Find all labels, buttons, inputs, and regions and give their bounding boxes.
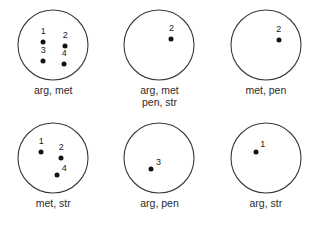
circle-container-6: 1 <box>230 122 302 194</box>
circle-container-2: 2 <box>123 9 195 81</box>
set-circle-2 <box>123 9 195 81</box>
data-point <box>276 38 281 43</box>
data-point-label: 2 <box>169 24 174 33</box>
caption-line: arg, met <box>34 84 73 96</box>
data-point-label: 2 <box>276 25 281 34</box>
data-point-label: 2 <box>59 143 64 152</box>
diagram-panel-3: 2 met, pen <box>213 0 319 113</box>
circle-container-5: 3 <box>123 122 195 194</box>
set-diagram-figure: 1 2 3 4 arg, met 2 arg, met <box>0 0 319 226</box>
set-circle-4 <box>17 122 89 194</box>
data-point <box>41 59 46 64</box>
diagram-row-bottom: 1 2 4 met, str 3 arg, pen <box>0 113 319 226</box>
data-point-label: 1 <box>39 137 44 146</box>
caption-line: arg, pen <box>140 197 179 209</box>
data-point <box>62 62 67 67</box>
caption-line: arg, str <box>249 197 282 209</box>
data-point <box>59 156 64 161</box>
data-point <box>55 173 60 178</box>
caption-line: met, str <box>36 197 71 209</box>
diagram-panel-2: 2 arg, met pen, str <box>106 0 212 113</box>
diagram-row-top: 1 2 3 4 arg, met 2 arg, met <box>0 0 319 113</box>
data-point-label: 3 <box>41 46 46 55</box>
caption-line: arg, met <box>140 84 179 96</box>
diagram-panel-1: 1 2 3 4 arg, met <box>0 0 106 113</box>
circle-container-1: 1 2 3 4 <box>17 9 89 81</box>
panel-caption-3: met, pen <box>245 84 286 96</box>
panel-caption-1: arg, met <box>34 84 73 96</box>
data-point <box>169 37 174 42</box>
circle-container-4: 1 2 4 <box>17 122 89 194</box>
data-point-label: 4 <box>62 49 67 58</box>
data-point <box>253 150 258 155</box>
data-point-label: 3 <box>156 158 161 167</box>
caption-line: met, pen <box>245 84 286 96</box>
data-point-label: 1 <box>41 27 46 36</box>
data-point-label: 1 <box>260 140 265 149</box>
data-point <box>149 167 154 172</box>
diagram-panel-4: 1 2 4 met, str <box>0 113 106 226</box>
data-point-label: 4 <box>62 164 67 173</box>
set-circle-3 <box>230 9 302 81</box>
data-point-label: 2 <box>63 31 68 40</box>
set-circle-1 <box>17 9 89 81</box>
panel-caption-4: met, str <box>36 197 71 209</box>
panel-caption-6: arg, str <box>249 197 282 209</box>
panel-caption-2: arg, met pen, str <box>140 84 179 108</box>
diagram-panel-6: 1 arg, str <box>213 113 319 226</box>
data-point <box>39 150 44 155</box>
circle-container-3: 2 <box>230 9 302 81</box>
panel-caption-5: arg, pen <box>140 197 179 209</box>
diagram-panel-5: 3 arg, pen <box>106 113 212 226</box>
caption-line: pen, str <box>140 96 179 108</box>
set-circle-6 <box>230 122 302 194</box>
